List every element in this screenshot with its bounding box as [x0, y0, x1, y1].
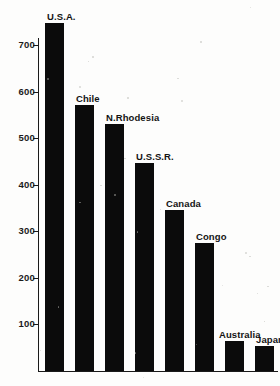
bar-chile[interactable] — [75, 105, 94, 371]
x-axis-baseline — [38, 371, 278, 373]
y-tick-label: 600 — [19, 86, 35, 97]
y-tick-label: 700 — [19, 39, 35, 50]
bar-n-rhodesia[interactable] — [105, 124, 124, 371]
scan-speck — [40, 350, 41, 351]
scan-speck — [264, 321, 265, 322]
bar-label-n-rhodesia: N.Rhodesia — [106, 112, 159, 123]
y-tick-label: 200 — [19, 272, 35, 283]
scan-speck — [127, 97, 128, 98]
scan-speck — [92, 56, 94, 58]
y-tick-label: 100 — [19, 318, 35, 329]
scan-speck — [88, 61, 89, 62]
bar-label-congo: Congo — [196, 231, 227, 242]
scan-speck — [160, 209, 161, 210]
bar-label-canada: Canada — [166, 198, 201, 209]
bar-label-u-s-s-r: U.S.S.R. — [136, 151, 174, 162]
scan-speck — [143, 377, 144, 378]
bar-australia[interactable] — [225, 341, 244, 371]
scan-speck — [257, 293, 258, 294]
scan-speck — [245, 252, 247, 254]
bar-congo[interactable] — [195, 243, 214, 371]
y-axis-line — [38, 38, 39, 372]
y-tick-label: 400 — [19, 179, 35, 190]
y-tick-label: 500 — [19, 132, 35, 143]
scan-speck — [177, 78, 179, 80]
scan-speck — [200, 41, 202, 43]
bar-u-s-s-r[interactable] — [135, 163, 154, 371]
scan-speck — [249, 256, 251, 258]
bar-canada[interactable] — [165, 210, 184, 371]
bar-u-s-a[interactable] — [45, 23, 64, 371]
scan-speck — [181, 100, 183, 102]
bar-label-chile: Chile — [76, 93, 100, 104]
scan-speck — [124, 158, 125, 159]
bar-chart: 700600500400300200100 U.S.A.ChileN.Rhode… — [0, 0, 280, 386]
scan-speck — [222, 285, 223, 286]
scan-speck — [267, 286, 268, 287]
y-tick-label: 300 — [19, 225, 35, 236]
bar-label-australia: Australia — [219, 329, 261, 340]
scan-speck — [100, 185, 101, 186]
bar-label-u-s-a: U.S.A. — [47, 11, 76, 22]
bar-label-japan: Japan — [256, 334, 280, 345]
bar-japan[interactable] — [255, 346, 274, 370]
scan-speck — [79, 86, 81, 88]
plot-area: 700600500400300200100 U.S.A.ChileN.Rhode… — [0, 0, 280, 386]
scan-speck — [250, 7, 251, 8]
